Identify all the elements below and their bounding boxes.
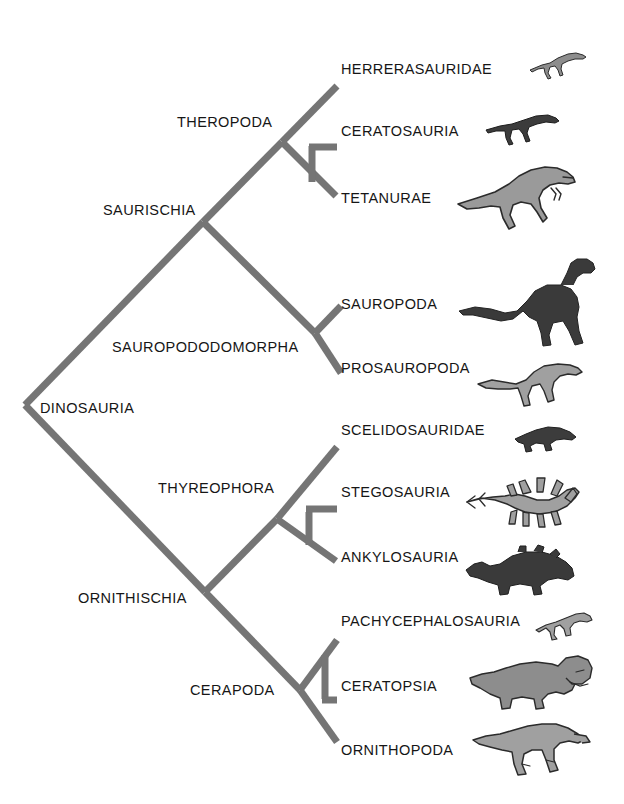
branch-sauropodomorpha-to-prosauropoda (315, 333, 341, 373)
node-label-theropoda[interactable]: THEROPODA (177, 115, 272, 130)
node-label-ornithischia[interactable]: ORNITHISCHIA (78, 591, 187, 606)
ornithopod-silhouette (470, 716, 602, 778)
node-label-thyreophora[interactable]: THYREOPHORA (158, 481, 274, 496)
ceratopsian-silhouette (466, 652, 602, 714)
branch-saurischia-to-theropoda (203, 142, 282, 222)
branch-saurischia-to-sauropodomorpha (203, 222, 315, 333)
node-label-saurischia[interactable]: SAURISCHIA (103, 203, 196, 218)
tip-label-scelidosauridae[interactable]: SCELIDOSAURIDAE (341, 423, 485, 438)
tip-label-ornithopoda[interactable]: ORNITHOPODA (341, 743, 453, 758)
branch-root-to-ornithischia (25, 405, 205, 592)
tyrannosaur-silhouette (455, 160, 590, 232)
stegosaur-silhouette (463, 466, 603, 536)
branch-ornithischia-to-thyreophora (205, 519, 277, 592)
ankylosaur-silhouette (462, 542, 590, 600)
branch-theropoda-to-herrerasauridae (282, 86, 337, 142)
tip-label-pachycephalosauria[interactable]: PACHYCEPHALOSAURIA (341, 614, 520, 629)
node-label-dinosauria[interactable]: DINOSAURIA (40, 401, 134, 416)
prosauropod-silhouette (476, 358, 596, 412)
tip-label-ceratosauria[interactable]: CERATOSAURIA (341, 124, 459, 139)
tip-label-ceratopsia[interactable]: CERATOPSIA (341, 679, 437, 694)
branch-cerapoda-to-pachycephalosauria (300, 640, 337, 690)
scelidosaur-silhouette (512, 420, 582, 454)
branch-root-to-saurischia (25, 222, 203, 405)
tip-label-prosauropoda[interactable]: PROSAUROPODA (341, 361, 470, 376)
branch-sauropodomorpha-to-sauropoda (315, 306, 341, 333)
pachycephalosaur-silhouette (534, 608, 596, 642)
tip-label-herrerasauridae[interactable]: HERRERASAURIDAE (341, 62, 492, 77)
node-label-sauropododomorpha[interactable]: SAUROPODODOMORPHA (112, 340, 298, 355)
ceratosaur-silhouette (484, 112, 562, 146)
tip-label-sauropoda[interactable]: SAUROPODA (341, 297, 437, 312)
tip-label-tetanurae[interactable]: TETANURAE (341, 191, 431, 206)
tip-label-ankylosauria[interactable]: ANKYLOSAURIA (341, 550, 459, 565)
theropod-running-silhouette (528, 48, 590, 80)
cladogram-diagram: HERRERASAURIDAE CERATOSAURIA TETANURAE S… (0, 0, 624, 804)
node-label-cerapoda[interactable]: CERAPODA (190, 683, 275, 698)
sauropod-silhouette (457, 255, 612, 353)
branch-ornithischia-to-cerapoda (205, 592, 300, 690)
tip-label-stegosauria[interactable]: STEGOSAURIA (341, 485, 450, 500)
